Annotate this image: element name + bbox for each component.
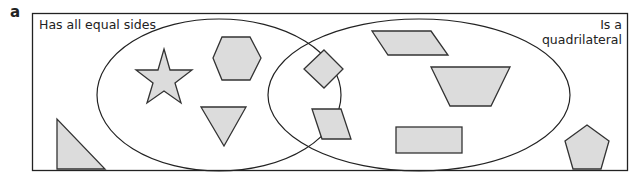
trapezium-shape	[431, 67, 510, 106]
rectangle-shape	[396, 127, 462, 153]
hexagon-shape	[213, 37, 261, 80]
square-shape	[304, 50, 343, 88]
parallelogram-shape	[372, 31, 448, 55]
rhombus-shape	[312, 109, 351, 139]
universal-set-frame	[33, 14, 628, 171]
right-triangle-shape	[57, 119, 105, 169]
pentagon-shape	[565, 125, 609, 169]
venn-diagram	[0, 0, 638, 183]
star-shape	[136, 49, 192, 103]
equilateral-triangle-shape	[201, 107, 246, 146]
set-ellipse-equal-sides	[97, 19, 341, 171]
